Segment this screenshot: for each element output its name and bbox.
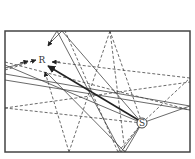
ray-segment	[110, 31, 142, 123]
ray-diagram: S R	[0, 0, 195, 159]
room-boundary	[5, 31, 190, 152]
receiver-label: R	[39, 55, 46, 65]
ray-segment	[62, 31, 142, 123]
ray-segment	[142, 78, 190, 123]
dashed-rays	[5, 31, 190, 152]
arrowhead-icon	[48, 40, 52, 46]
arrowhead-icon	[30, 60, 36, 62]
source-label: S	[139, 118, 145, 128]
solid-rays	[5, 31, 190, 152]
ray-segment	[48, 31, 57, 45]
ray-segment	[5, 62, 190, 110]
ray-segment	[45, 72, 69, 152]
ray-segment	[5, 74, 190, 106]
